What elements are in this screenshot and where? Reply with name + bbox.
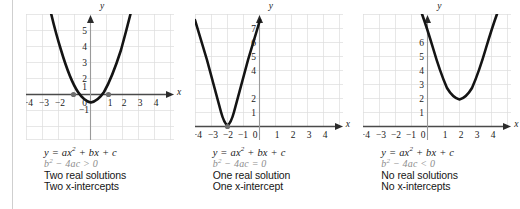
- svg-text:7: 7: [251, 24, 256, 34]
- svg-text:4: 4: [154, 98, 159, 108]
- panel-two-solutions: 5 4 3 2 1 1 1 0 −1 −4 −3: [14, 0, 183, 209]
- svg-text:1: 1: [82, 82, 87, 92]
- y-tick-labels: 6 5 4 3 2 1: [420, 38, 425, 118]
- x-axis-letter: x: [514, 119, 518, 129]
- svg-text:3: 3: [306, 130, 311, 140]
- svg-text:1: 1: [420, 108, 425, 118]
- svg-text:−1: −1: [79, 105, 89, 115]
- svg-text:−2: −2: [391, 130, 401, 140]
- svg-text:−1: −1: [238, 130, 248, 140]
- svg-text:2: 2: [420, 94, 425, 104]
- y-axis-letter: y: [437, 1, 441, 11]
- y-axis: [87, 15, 94, 140]
- svg-text:2: 2: [459, 130, 464, 140]
- svg-text:2: 2: [251, 94, 256, 104]
- graph-svg-one-solution: 7 6 5 4 2 1 −4 −3 −2 −1 0 1 2: [195, 14, 343, 140]
- panel-row: 5 4 3 2 1 1 1 0 −1 −4 −3: [0, 0, 520, 209]
- svg-text:3: 3: [475, 130, 480, 140]
- graph-no-solutions: 6 5 4 3 2 1 −4 −3 −2 −1 0 1 2: [363, 14, 511, 140]
- svg-text:2: 2: [122, 98, 127, 108]
- svg-text:−4: −4: [26, 98, 33, 108]
- panel-one-solution: 7 6 5 4 2 1 −4 −3 −2 −1 0 1 2: [183, 0, 352, 209]
- gridlines: [363, 14, 511, 127]
- svg-text:4: 4: [420, 66, 425, 76]
- intercepts-line: Two x-intercepts: [44, 181, 188, 192]
- svg-text:5: 5: [82, 26, 87, 36]
- panel-no-solutions: 6 5 4 3 2 1 −4 −3 −2 −1 0 1 2: [351, 0, 520, 209]
- svg-text:1: 1: [108, 98, 113, 108]
- svg-text:−3: −3: [376, 130, 386, 140]
- y-tick-labels: 7 6 5 4 2 1: [251, 24, 256, 118]
- svg-text:−2: −2: [55, 98, 65, 108]
- x-intercept-marker-right: [106, 92, 111, 97]
- gridlines: [26, 14, 174, 140]
- x-tick-labels: −4 −3 −2 −1 0 1 2 3 4: [363, 130, 496, 140]
- svg-text:0: 0: [252, 130, 257, 140]
- equation-line: y = ax2 + bx + c: [381, 146, 520, 158]
- svg-text:3: 3: [420, 80, 425, 90]
- x-intercept-marker-left: [71, 92, 76, 97]
- intercepts-line: One x-intercept: [213, 181, 357, 192]
- x-axis: [195, 123, 343, 130]
- svg-text:5: 5: [420, 52, 425, 62]
- svg-text:1: 1: [274, 130, 279, 140]
- svg-text:−3: −3: [39, 98, 49, 108]
- svg-text:1: 1: [443, 130, 448, 140]
- svg-text:−1: −1: [406, 130, 416, 140]
- x-axis-letter: x: [177, 87, 181, 97]
- equation-line: y = ax2 + bx + c: [44, 146, 188, 158]
- y-axis-letter: y: [100, 1, 104, 11]
- svg-text:4: 4: [251, 66, 256, 76]
- graph-one-solution: 7 6 5 4 2 1 −4 −3 −2 −1 0 1 2: [195, 14, 343, 140]
- svg-text:6: 6: [420, 38, 425, 48]
- graph-svg-two-solutions: 5 4 3 2 1 1 1 0 −1 −4 −3: [26, 14, 174, 140]
- svg-text:−2: −2: [223, 130, 233, 140]
- svg-text:4: 4: [82, 42, 87, 52]
- graph-two-solutions: 5 4 3 2 1 1 1 0 −1 −4 −3: [26, 14, 174, 140]
- equation-line: y = ax2 + bx + c: [213, 146, 357, 158]
- x-axis-letter: x: [346, 119, 350, 129]
- x-intercept-marker: [225, 124, 230, 129]
- svg-text:4: 4: [491, 130, 496, 140]
- x-tick-labels: −4 −3 −2 −1 0 1 2 3 4: [195, 130, 328, 140]
- svg-text:2: 2: [290, 130, 295, 140]
- svg-text:3: 3: [82, 58, 87, 68]
- quadratic-discriminant-figure: 5 4 3 2 1 1 1 0 −1 −4 −3: [0, 0, 520, 209]
- caption-one-solution: y = ax2 + bx + c b2 − 4ac = 0 One real s…: [197, 146, 357, 193]
- svg-text:−3: −3: [208, 130, 218, 140]
- intercepts-line: No x-intercepts: [381, 181, 520, 192]
- y-tick-labels-extra: 1 0 −1: [79, 82, 89, 115]
- caption-no-solutions: y = ax2 + bx + c b2 − 4ac < 0 No real so…: [365, 146, 520, 193]
- svg-text:−4: −4: [195, 130, 202, 140]
- svg-text:0: 0: [421, 130, 426, 140]
- caption-two-solutions: y = ax2 + bx + c b2 − 4ac > 0 Two real s…: [28, 146, 188, 193]
- graph-svg-no-solutions: 6 5 4 3 2 1 −4 −3 −2 −1 0 1 2: [363, 14, 511, 140]
- svg-text:−4: −4: [363, 130, 370, 140]
- y-axis-letter: y: [269, 1, 273, 11]
- svg-text:6: 6: [251, 38, 256, 48]
- svg-text:1: 1: [251, 108, 256, 118]
- gridlines: [195, 14, 343, 127]
- x-axis: [363, 123, 511, 130]
- svg-text:5: 5: [251, 52, 256, 62]
- svg-text:4: 4: [322, 130, 327, 140]
- svg-text:3: 3: [138, 98, 143, 108]
